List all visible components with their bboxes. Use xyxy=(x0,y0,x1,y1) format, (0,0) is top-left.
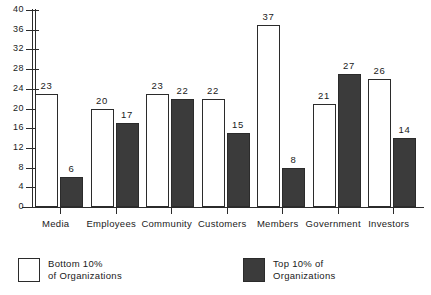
bar-value-label: 22 xyxy=(196,86,231,96)
bar xyxy=(368,79,391,207)
y-axis-tick-label: 16 xyxy=(2,123,24,132)
legend-item-top-10: Top 10% of Organizations xyxy=(243,258,336,282)
bar-value-label: 15 xyxy=(221,120,256,130)
x-axis-tick xyxy=(393,208,394,214)
legend-label-bottom-10-line2: of Organizations xyxy=(48,270,122,282)
bar-value-label: 26 xyxy=(362,66,397,76)
y-axis-tick-label-wrap: 24 xyxy=(0,84,24,93)
x-axis-line xyxy=(22,207,424,208)
legend-label-bottom-10-line1: Bottom 10% xyxy=(48,258,122,270)
bar-value-label: 20 xyxy=(85,96,120,106)
bar xyxy=(60,177,83,207)
y-axis-tick-label: 36 xyxy=(2,25,24,34)
bar xyxy=(227,133,250,207)
bar xyxy=(171,99,194,207)
y-axis-tick xyxy=(26,10,39,11)
y-axis-tick-label: 12 xyxy=(2,143,24,152)
y-axis-tick-label-wrap: 0 xyxy=(0,202,24,211)
x-axis-tick xyxy=(282,208,283,214)
y-axis-tick-label: 40 xyxy=(2,5,24,14)
y-axis-tick-label: 8 xyxy=(2,163,24,172)
bar-chart: 0481216202428323640 23620172322221537821… xyxy=(0,0,431,295)
legend-label-top-10-line2: Organizations xyxy=(273,270,336,282)
legend-label-bottom-10: Bottom 10% of Organizations xyxy=(48,258,122,282)
y-axis-tick-label-wrap: 36 xyxy=(0,25,24,34)
y-axis-tick-label: 28 xyxy=(2,64,24,73)
bar xyxy=(91,109,114,208)
y-axis-tick-label: 24 xyxy=(2,84,24,93)
bar xyxy=(393,138,416,207)
bar-value-label: 8 xyxy=(276,155,311,165)
x-axis-tick xyxy=(116,208,117,214)
chart-legend: Bottom 10% of Organizations Top 10% of O… xyxy=(0,252,431,295)
y-axis-tick xyxy=(26,207,39,208)
y-axis-tick-label-wrap: 28 xyxy=(0,64,24,73)
bar-value-label: 21 xyxy=(307,91,342,101)
y-axis-tick-label-wrap: 12 xyxy=(0,143,24,152)
bar-value-label: 23 xyxy=(29,81,64,91)
y-axis-tick xyxy=(26,49,39,50)
bar-value-label: 37 xyxy=(251,12,286,22)
y-axis-tick-label: 20 xyxy=(2,104,24,113)
y-axis-tick-label-wrap: 20 xyxy=(0,104,24,113)
y-axis-tick xyxy=(26,30,39,31)
legend-swatch-top-10 xyxy=(243,258,265,282)
y-axis-tick-label-wrap: 40 xyxy=(0,5,24,14)
x-axis-tick xyxy=(171,208,172,214)
bar-value-label: 14 xyxy=(387,125,422,135)
x-axis-tick xyxy=(60,208,61,214)
bar xyxy=(35,94,58,207)
bar-value-label: 6 xyxy=(54,164,89,174)
y-axis-tick-label: 32 xyxy=(2,44,24,53)
y-axis-tick-label-wrap: 16 xyxy=(0,123,24,132)
legend-label-top-10: Top 10% of Organizations xyxy=(273,258,336,282)
bar xyxy=(257,25,280,207)
y-axis-tick-label-wrap: 8 xyxy=(0,163,24,172)
x-axis-group-label: Investors xyxy=(356,218,422,229)
bar-value-label: 17 xyxy=(110,110,145,120)
bar xyxy=(146,94,169,207)
x-axis-tick xyxy=(338,208,339,214)
y-axis-tick-label: 0 xyxy=(2,202,24,211)
legend-label-top-10-line1: Top 10% of xyxy=(273,258,336,270)
bar xyxy=(202,99,225,207)
y-axis-tick-label-wrap: 4 xyxy=(0,182,24,191)
bar xyxy=(338,74,361,207)
y-axis-tick-label: 4 xyxy=(2,182,24,191)
bar xyxy=(282,168,305,207)
x-axis-tick xyxy=(227,208,228,214)
bar xyxy=(116,123,139,207)
y-axis-tick xyxy=(26,69,39,70)
bar xyxy=(313,104,336,207)
legend-swatch-bottom-10 xyxy=(18,258,40,282)
legend-item-bottom-10: Bottom 10% of Organizations xyxy=(18,258,122,282)
y-axis-tick-label-wrap: 32 xyxy=(0,44,24,53)
